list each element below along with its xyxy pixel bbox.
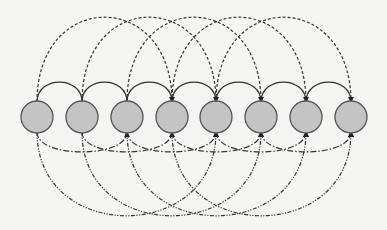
graph-node-5 [245, 101, 277, 133]
edge-span-1-solid [261, 82, 306, 102]
graph-svg [0, 0, 387, 230]
edge-span-1-solid [172, 82, 216, 102]
edge-span-3-dashed [127, 17, 261, 102]
edge-span-1-solid [37, 82, 82, 102]
graph-node-0 [21, 101, 53, 133]
graph-node-2 [111, 101, 143, 133]
edge-span-1-solid [216, 82, 261, 102]
edge-span-1-solid [306, 82, 351, 102]
edge-span-3-dashed [37, 17, 172, 102]
edge-span-1-solid [127, 82, 172, 102]
diagram-canvas [0, 0, 387, 230]
graph-node-7 [335, 101, 367, 133]
edge-span-4-dashdotdot [127, 132, 306, 216]
edge-span-1-solid [82, 82, 127, 102]
edge-span-4-dashdotdot [82, 132, 261, 216]
edge-span-4-dashdotdot [37, 132, 216, 216]
edge-span-3-dashed [216, 17, 351, 102]
edge-span-3-dashed [82, 17, 216, 102]
graph-node-3 [156, 101, 188, 133]
edge-span-3-dashed [172, 17, 306, 102]
graph-node-4 [200, 101, 232, 133]
graph-node-1 [66, 101, 98, 133]
graph-node-6 [290, 101, 322, 133]
edge-span-4-dashdotdot [172, 132, 351, 216]
nodes-layer [21, 101, 367, 133]
